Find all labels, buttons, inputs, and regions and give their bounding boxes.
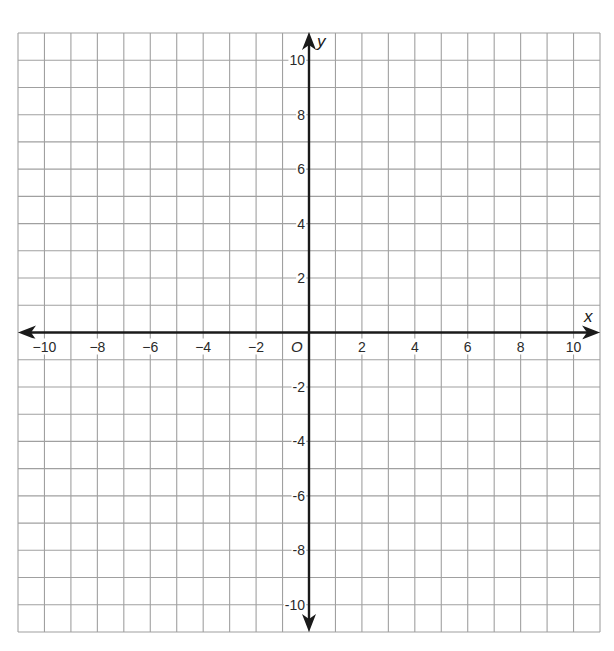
origin-label: O xyxy=(291,338,303,355)
x-axis-label: x xyxy=(583,307,593,326)
y-tick-label: -2 xyxy=(293,379,306,395)
x-tick-label: 4 xyxy=(411,339,419,355)
x-tick-label: 2 xyxy=(358,339,366,355)
x-tick-label: −6 xyxy=(142,339,158,355)
y-tick-label: 10 xyxy=(289,52,305,68)
x-tick-label: −10 xyxy=(33,339,57,355)
y-axis-label: y xyxy=(316,32,327,51)
x-tick-label: 6 xyxy=(464,339,472,355)
y-tick-label: 6 xyxy=(297,161,305,177)
x-tick-label: −4 xyxy=(195,339,211,355)
y-tick-label: -6 xyxy=(293,488,306,504)
y-tick-label: 8 xyxy=(297,107,305,123)
coordinate-plane: −10−8−6−4−2246810108642-2-4-6-8-10 x y O xyxy=(0,0,614,651)
y-tick-label: -8 xyxy=(293,542,306,558)
x-tick-label: 8 xyxy=(517,339,525,355)
y-tick-label: 4 xyxy=(297,216,305,232)
x-tick-label: −8 xyxy=(89,339,105,355)
x-tick-label: 10 xyxy=(566,339,582,355)
x-tick-label: −2 xyxy=(248,339,264,355)
y-tick-label: 2 xyxy=(297,270,305,286)
y-tick-label: -4 xyxy=(293,433,306,449)
y-tick-label: -10 xyxy=(285,597,305,613)
axes xyxy=(18,32,600,632)
